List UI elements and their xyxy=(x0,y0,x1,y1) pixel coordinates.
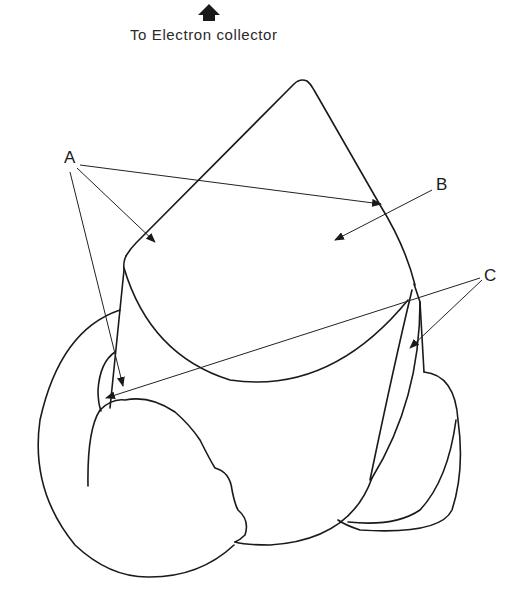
main-body xyxy=(38,310,372,577)
label-b: B xyxy=(436,175,447,195)
cone-outline xyxy=(110,80,415,408)
label-c: C xyxy=(484,266,496,286)
label-a: A xyxy=(64,148,75,168)
pointer-b xyxy=(335,190,432,240)
cauliflower-lobe xyxy=(88,399,247,542)
pointer-a xyxy=(70,165,381,386)
diagram-drawing xyxy=(0,0,522,606)
caption-to-electron-collector: To Electron collector xyxy=(130,26,278,43)
up-arrow-icon xyxy=(198,4,220,21)
